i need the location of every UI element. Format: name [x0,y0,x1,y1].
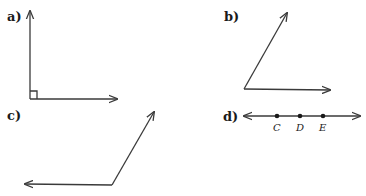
point-c-dot-icon [275,114,280,119]
right-angle-marker-icon [30,91,37,99]
point-e-dot-icon [321,114,326,119]
ray-left-arrow-icon [25,184,112,185]
figure-a-label: a) [7,9,22,24]
figure-c: c) [7,108,154,185]
figure-b: b) [224,9,330,90]
point-d-label: D [295,122,304,133]
figure-d-label: d) [223,109,238,124]
point-e-label: E [318,122,327,133]
ray-upright-arrow-icon [112,112,154,185]
point-c-label: C [273,122,281,133]
figure-d: d) C D E [223,109,360,133]
figure-c-label: c) [7,108,21,123]
ray-upright-arrow-icon [244,13,287,89]
figure-a: a) [7,9,117,99]
angle-figures: a) b) c) d) C D E [0,0,366,196]
point-d-dot-icon [298,114,303,119]
ray-right-arrow-icon [244,89,330,90]
figure-b-label: b) [224,9,239,24]
